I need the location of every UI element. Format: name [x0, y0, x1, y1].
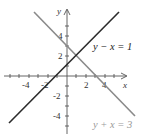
coordinate-graph: x y -4 -2 2 4 4 2 -2 -4 y − x = 1 y + x … [0, 0, 144, 136]
y-tick-label: -4 [53, 111, 61, 121]
y-tick-label: 2 [58, 51, 63, 61]
x-tick-label: -4 [22, 80, 30, 90]
line-y-minus-x-eq-1 [9, 12, 119, 123]
y-axis-label: y [56, 6, 61, 16]
x-tick-label: 2 [84, 80, 89, 90]
equation-label-y-plus-x: y + x = 3 [92, 119, 132, 130]
line-y-plus-x-eq-3 [34, 12, 135, 116]
x-axis [4, 73, 127, 79]
x-axis-label: x [122, 80, 127, 90]
y-tick-label: -2 [53, 91, 61, 101]
equation-label-y-minus-x: y − x = 1 [92, 41, 132, 52]
y-axis [64, 9, 70, 134]
